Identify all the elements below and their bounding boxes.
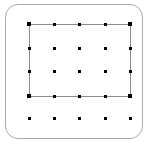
grid-dot (53, 47, 56, 50)
grid-dot (104, 95, 107, 98)
grid-dot (78, 70, 81, 73)
grid-dot (129, 47, 132, 50)
grid-dot (53, 70, 56, 73)
grid-dot (53, 23, 56, 26)
grid-dot (27, 22, 31, 26)
diagram-canvas (0, 0, 149, 144)
grid-dot (28, 47, 31, 50)
grid-dot (28, 70, 31, 73)
grid-dot (27, 94, 31, 98)
grid-dot (129, 70, 132, 73)
grid-dot (104, 70, 107, 73)
grid-dot (78, 95, 81, 98)
grid-dot (78, 47, 81, 50)
grid-dot (129, 117, 132, 120)
grid-dot (128, 22, 132, 26)
grid-dot (104, 117, 107, 120)
grid-dot (78, 23, 81, 26)
grid-dot (53, 95, 56, 98)
grid-dot (78, 117, 81, 120)
rectangle-outline (29, 24, 131, 97)
grid-dot (28, 117, 31, 120)
grid-dot (128, 94, 132, 98)
grid-dot (104, 47, 107, 50)
grid-dot (53, 117, 56, 120)
grid-dot (104, 23, 107, 26)
